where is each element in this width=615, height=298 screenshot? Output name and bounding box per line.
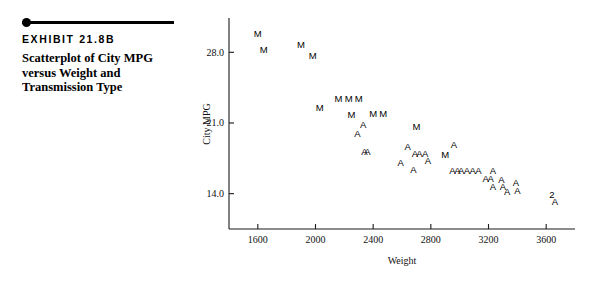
data-point-marker: A bbox=[475, 165, 482, 176]
x-axis-ticks: 160020002400280032003600 bbox=[248, 224, 556, 245]
data-point-marker: A bbox=[425, 155, 432, 166]
data-point-marker: M bbox=[348, 109, 356, 120]
data-point-marker: M bbox=[260, 44, 268, 55]
data-point-marker: M bbox=[379, 108, 387, 119]
exhibit-title: Scatterplot of City MPG versus Weight an… bbox=[22, 51, 172, 95]
data-point-marker: M bbox=[412, 121, 420, 132]
exhibit-number: EXHIBIT 21.8B bbox=[22, 33, 182, 45]
data-point-marker: M bbox=[309, 50, 317, 61]
exhibit-rule bbox=[22, 18, 182, 28]
exhibit-caption-block: EXHIBIT 21.8B Scatterplot of City MPG ve… bbox=[22, 18, 182, 95]
data-point-marker: M bbox=[297, 39, 305, 50]
y-axis-title: City MPG bbox=[201, 103, 212, 144]
data-point-marker: A bbox=[514, 185, 521, 196]
x-tick-label: 3200 bbox=[479, 234, 499, 245]
data-point-marker: M bbox=[254, 28, 262, 39]
data-point-marker: M bbox=[316, 102, 324, 113]
data-point-marker: M bbox=[355, 93, 363, 104]
data-point-marker: A bbox=[360, 119, 367, 130]
x-tick-label: 3600 bbox=[536, 234, 556, 245]
data-point-marker: A bbox=[354, 128, 361, 139]
x-tick-label: 2800 bbox=[421, 234, 441, 245]
data-point-marker: M bbox=[345, 93, 353, 104]
data-point-marker: A bbox=[504, 186, 511, 197]
x-tick-label: 2000 bbox=[306, 234, 326, 245]
data-point-layer: MMMMMMMMMMMMMAAAAAAAAAAAAAAAAAAAAAAAAAAA… bbox=[254, 28, 559, 207]
exhibit-rule-bar bbox=[22, 21, 174, 24]
data-point-marker: A bbox=[451, 139, 458, 150]
data-point-marker: 2 bbox=[549, 189, 554, 200]
x-tick-label: 2400 bbox=[363, 234, 383, 245]
y-tick-label: 28.0 bbox=[207, 47, 225, 58]
y-tick-label: 14.0 bbox=[207, 188, 225, 199]
data-point-marker: A bbox=[490, 181, 497, 192]
scatterplot-canvas: 14.021.028.0 160020002400280032003600 We… bbox=[200, 14, 600, 284]
data-point-marker: A bbox=[364, 146, 371, 157]
data-point-marker: M bbox=[441, 149, 449, 160]
data-point-marker: M bbox=[369, 108, 377, 119]
data-point-marker: A bbox=[410, 164, 417, 175]
data-point-marker: A bbox=[397, 157, 404, 168]
data-point-marker: M bbox=[335, 93, 343, 104]
x-axis-title: Weight bbox=[388, 255, 417, 266]
scatterplot-figure: 14.021.028.0 160020002400280032003600 We… bbox=[200, 14, 600, 284]
data-point-marker: A bbox=[405, 141, 412, 152]
x-tick-label: 1600 bbox=[248, 234, 268, 245]
